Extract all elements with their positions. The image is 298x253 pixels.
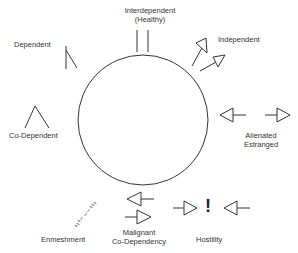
interdependent-label: Interdependent (Healthy): [118, 6, 182, 24]
malignant-codependency-icon: [125, 192, 154, 224]
alienated-text: Alienated: [236, 131, 286, 140]
codependent-icon: [25, 106, 49, 128]
hostility-label: Hostility: [196, 235, 222, 244]
codependent-label: Co-Dependent: [9, 131, 58, 140]
relationship-circle: [78, 55, 208, 185]
estranged-text: Estranged: [236, 140, 286, 149]
malignant-codependency-label: Malignant Co-Dependency: [110, 228, 168, 246]
dependent-icon: [66, 46, 77, 69]
malignant-text: Malignant: [110, 228, 168, 237]
hostility-exclamation-icon: !: [205, 196, 211, 217]
interdependent-text: Interdependent: [118, 6, 182, 15]
enmeshment-label: Enmeshment: [41, 235, 85, 244]
codependency-text: Co-Dependency: [110, 237, 168, 246]
hostility-icon: [173, 201, 250, 215]
dependent-label: Dependent: [14, 40, 51, 49]
interdependent-icon: [137, 30, 148, 52]
alienated-icon: [220, 108, 290, 122]
healthy-text: (Healthy): [118, 15, 182, 24]
alienated-label: Alienated Estranged: [236, 131, 286, 149]
independent-label: Independent: [218, 35, 260, 44]
